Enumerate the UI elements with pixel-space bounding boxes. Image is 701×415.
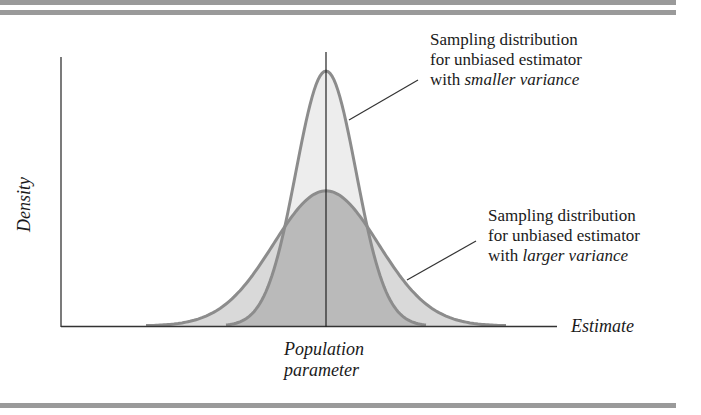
- leader-line-small: [349, 80, 418, 120]
- annotation-larger-variance: Sampling distribution for unbiased estim…: [488, 206, 640, 266]
- annotation-line: for unbiased estimator: [430, 50, 582, 70]
- y-axis-label: Density: [14, 177, 35, 232]
- annotation-text: with: [430, 70, 464, 89]
- label-line: Population: [284, 339, 364, 360]
- annotation-italic-text: larger variance: [522, 246, 628, 265]
- annotation-line: for unbiased estimator: [488, 226, 640, 246]
- annotation-line: with larger variance: [488, 246, 640, 266]
- label-line: parameter: [284, 360, 364, 381]
- population-parameter-label: Population parameter: [284, 339, 364, 381]
- annotation-smaller-variance: Sampling distribution for unbiased estim…: [430, 30, 582, 90]
- annotation-line: Sampling distribution: [430, 30, 582, 50]
- annotation-text: with: [488, 246, 522, 265]
- annotation-line: Sampling distribution: [488, 206, 640, 226]
- x-axis-label: Estimate: [571, 316, 634, 336]
- annotation-line: with smaller variance: [430, 70, 582, 90]
- leader-line-large: [407, 241, 476, 280]
- annotation-italic-text: smaller variance: [464, 70, 579, 89]
